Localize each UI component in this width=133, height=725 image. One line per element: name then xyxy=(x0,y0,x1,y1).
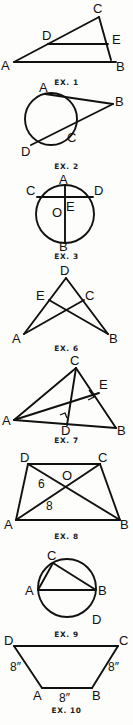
figure-ex-7: C A B D E EX. 7 xyxy=(0,352,133,445)
point-label-d: D xyxy=(21,144,30,159)
point-label-a: A xyxy=(12,331,21,344)
measure-label-base-ab: 8″ xyxy=(59,691,71,705)
point-label-b: B xyxy=(120,517,129,532)
point-label-b: B xyxy=(117,423,126,436)
point-label-d: D xyxy=(60,263,69,278)
point-label-c: C xyxy=(93,1,102,16)
point-label-d: D xyxy=(4,636,13,648)
point-label-c: C xyxy=(85,288,94,303)
point-label-e: E xyxy=(66,199,75,214)
point-label-b: B xyxy=(109,331,118,344)
point-label-c: C xyxy=(67,130,76,145)
segment-c-b xyxy=(99,17,111,60)
figure-ex-6: D E C A B EX. 6 xyxy=(0,262,133,353)
figure-ex-8: D C A B O 6 8 EX. 8 xyxy=(0,450,133,541)
point-label-o: O xyxy=(52,205,62,220)
point-label-c: C xyxy=(47,548,56,563)
segment-a-c xyxy=(14,17,99,62)
figure-caption: EX. 3 xyxy=(0,252,133,261)
segment-a-e-altitude xyxy=(14,393,99,420)
point-label-a: A xyxy=(39,82,48,95)
diagonal-a-c xyxy=(16,464,100,520)
measure-label-leg-da: 8″ xyxy=(10,660,22,674)
diagonal-d-b xyxy=(28,464,120,520)
figure-ex-9-drawing: A B C D xyxy=(0,548,133,630)
figure-ex-6-drawing: D E C A B xyxy=(0,262,133,344)
figure-ex-7-drawing: C A B D E xyxy=(0,352,133,436)
point-label-b: B xyxy=(92,688,101,703)
point-label-c: C xyxy=(98,450,107,465)
point-label-b: B xyxy=(59,239,68,252)
point-label-a: A xyxy=(1,58,10,73)
figure-caption: EX. 10 xyxy=(0,706,133,715)
figure-caption: EX. 2 xyxy=(0,162,133,171)
figure-ex-2: A B C D EX. 2 xyxy=(0,82,133,171)
segment-c-a xyxy=(24,300,84,334)
segment-c-d-altitude xyxy=(67,368,76,425)
segment-a-b xyxy=(45,94,113,104)
figure-ex-8-drawing: D C A B O 6 8 xyxy=(0,450,133,532)
segment-a-c xyxy=(14,368,76,420)
figure-ex-3-drawing: A B C D O E xyxy=(0,172,133,252)
segment-c-b xyxy=(100,464,120,520)
point-label-c: C xyxy=(119,636,128,648)
segment-c-b xyxy=(53,563,96,590)
segment-d-a xyxy=(16,464,28,520)
figure-ex-1: A B C D E EX. 1 xyxy=(0,0,133,87)
point-label-e: E xyxy=(99,377,108,392)
measure-label-8: 8 xyxy=(46,499,53,513)
figure-caption: EX. 8 xyxy=(0,532,133,541)
figure-ex-1-drawing: A B C D E xyxy=(0,0,133,78)
point-label-d: D xyxy=(20,450,29,465)
point-label-c: C xyxy=(26,183,35,198)
point-label-e: E xyxy=(36,288,45,303)
point-label-b: B xyxy=(98,583,107,598)
figure-ex-10: D C A B 8″ 8″ 8″ EX. 10 xyxy=(0,636,133,715)
figure-ex-2-drawing: A B C D xyxy=(0,82,133,162)
figure-ex-3: A B C D O E EX. 3 xyxy=(0,172,133,261)
figure-ex-9: A B C D EX. 9 xyxy=(0,548,133,639)
point-label-d: D xyxy=(61,423,70,436)
point-label-e: E xyxy=(112,32,121,47)
point-label-a: A xyxy=(33,688,42,703)
circle-outline xyxy=(38,559,96,617)
point-label-a: A xyxy=(2,413,11,428)
point-label-a: A xyxy=(4,517,13,532)
figure-ex-10-drawing: D C A B 8″ 8″ 8″ xyxy=(0,636,133,706)
point-label-c: C xyxy=(70,353,79,368)
measure-label-6: 6 xyxy=(38,477,45,491)
point-label-o: O xyxy=(62,468,72,483)
figure-sheet: A B C D E EX. 1 A B C D EX. 2 A B C D xyxy=(0,0,133,725)
right-angle-mark-d xyxy=(60,413,67,418)
point-label-a: A xyxy=(25,583,34,598)
point-label-d: D xyxy=(94,183,103,198)
point-label-d: D xyxy=(92,612,101,627)
point-label-d: D xyxy=(42,28,51,43)
point-label-b: B xyxy=(116,59,125,74)
figure-caption: EX. 7 xyxy=(0,436,133,445)
point-label-b: B xyxy=(115,94,124,109)
segment-e-b xyxy=(49,300,108,334)
point-label-a: A xyxy=(59,172,68,187)
measure-label-leg-cb: 8″ xyxy=(108,660,120,674)
